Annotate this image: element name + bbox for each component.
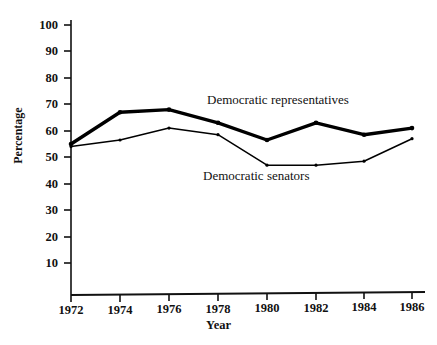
y-tick-label-20: 20 — [26, 230, 58, 245]
x-tick-label-1976: 1976 — [146, 302, 192, 317]
y-tick-label-90: 90 — [26, 44, 58, 59]
y-axis-title: Percentage — [11, 96, 26, 176]
y-tick-label-80: 80 — [26, 71, 58, 86]
y-tick-label-40: 40 — [26, 177, 58, 192]
x-tick-label-1986: 1986 — [389, 300, 435, 315]
y-tick-label-30: 30 — [26, 203, 58, 218]
x-axis-title: Year — [0, 318, 437, 333]
y-tick-label-10: 10 — [26, 256, 58, 271]
y-tick-label-50: 50 — [26, 150, 58, 165]
x-tick-label-1974: 1974 — [97, 303, 143, 318]
series-annotation-democratic-representatives: Democratic representatives — [207, 92, 349, 108]
series-annotation-democratic-senators: Democratic senators — [203, 168, 309, 184]
x-tick-label-1972: 1972 — [48, 303, 94, 318]
y-tick-label-60: 60 — [26, 124, 58, 139]
x-axis-line — [71, 292, 425, 295]
x-tick-label-1978: 1978 — [195, 302, 241, 317]
x-tick-label-1980: 1980 — [244, 301, 290, 316]
y-tick-label-100: 100 — [26, 18, 58, 33]
y-tick-label-70: 70 — [26, 97, 58, 112]
line-chart-figure: 100 90 80 70 60 50 40 30 20 10 1972 1974… — [0, 0, 437, 345]
x-tick-label-1984: 1984 — [341, 300, 387, 315]
x-tick-label-1982: 1982 — [293, 301, 339, 316]
